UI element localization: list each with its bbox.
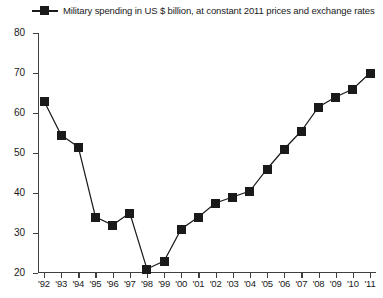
y-axis-tick-label: 70 — [3, 66, 25, 79]
data-point-marker — [245, 187, 254, 196]
y-axis-tick-label: 20 — [3, 266, 25, 279]
data-point-marker — [160, 257, 169, 266]
y-axis-tick-label: 50 — [3, 146, 25, 159]
chart-container: Military spending in US $ billion, at co… — [0, 0, 383, 298]
chart-legend: Military spending in US $ billion, at co… — [32, 4, 375, 18]
y-axis-tick-label: 60 — [3, 106, 25, 119]
y-axis-tick-label: 30 — [3, 226, 25, 239]
data-point-marker — [40, 97, 49, 106]
data-point-marker — [331, 93, 340, 102]
data-point-marker — [366, 69, 375, 78]
data-point-marker — [91, 213, 100, 222]
y-axis-tick-label: 80 — [3, 26, 25, 39]
data-point-marker — [297, 127, 306, 136]
legend-label: Military spending in US $ billion, at co… — [63, 5, 375, 17]
data-point-marker — [177, 225, 186, 234]
data-point-marker — [142, 265, 151, 274]
data-point-marker — [348, 85, 357, 94]
legend-marker-icon — [32, 5, 58, 17]
plot-area: 80706050403020 '92'93'94'95'96'97'98'99'… — [38, 33, 376, 273]
data-point-marker — [108, 221, 117, 230]
series-line — [38, 33, 376, 273]
x-axis-tick-label: '11 — [357, 278, 383, 290]
data-point-marker — [57, 131, 66, 140]
data-point-marker — [74, 143, 83, 152]
y-axis-tick-label: 40 — [3, 186, 25, 199]
data-point-marker — [314, 103, 323, 112]
data-point-marker — [194, 213, 203, 222]
data-point-marker — [228, 193, 237, 202]
y-axis-tick: 20 — [33, 273, 38, 274]
data-point-marker — [125, 209, 134, 218]
data-point-marker — [211, 199, 220, 208]
data-point-marker — [263, 165, 272, 174]
data-point-marker — [280, 145, 289, 154]
